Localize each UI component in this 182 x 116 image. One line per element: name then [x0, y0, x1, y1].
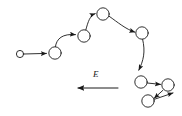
- circle-3: [78, 30, 90, 42]
- figure-canvas: E: [0, 0, 182, 116]
- trajectory-diagram: [0, 0, 182, 116]
- edge-6-7: [147, 83, 160, 84]
- circle-7: [162, 79, 174, 91]
- circle-8: [142, 95, 154, 107]
- circle-6: [135, 76, 147, 88]
- small-circle-start: [16, 50, 23, 57]
- edge-5-6: [139, 39, 144, 70]
- circle-2: [49, 47, 61, 59]
- edge-3-4: [86, 14, 95, 30]
- edge-2-3: [55, 34, 75, 46]
- circle-5: [136, 27, 148, 39]
- circle-4: [97, 8, 109, 20]
- edge-1-2: [24, 53, 46, 54]
- edge-4-5: [109, 16, 135, 32]
- field-label-E: E: [93, 70, 99, 79]
